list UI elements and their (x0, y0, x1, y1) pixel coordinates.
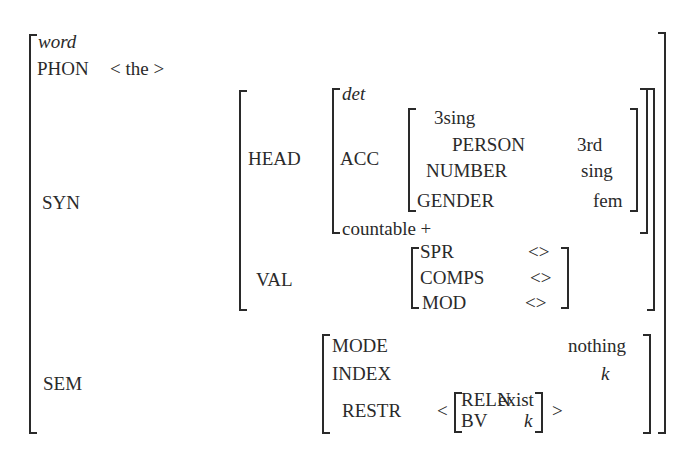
word-type: word (38, 31, 76, 53)
syn-label: SYN (42, 192, 80, 214)
acc-type: 3sing (434, 107, 475, 129)
index-label: INDEX (332, 363, 391, 385)
person-label: PERSON (452, 134, 525, 156)
sem-bracket-left (322, 334, 330, 434)
mod-value: <> (525, 292, 546, 314)
syn-bracket-left (239, 90, 247, 311)
acc-bracket-left (408, 108, 416, 212)
sem-label: SEM (43, 373, 82, 395)
restr-bracket-right (535, 392, 543, 433)
reln-value: exist (498, 389, 534, 411)
spr-label: SPR (420, 241, 454, 263)
head-label: HEAD (248, 148, 301, 170)
restr-open-angle: < (437, 400, 448, 422)
head-bracket-right (640, 88, 648, 234)
gender-value: fem (593, 190, 623, 212)
gender-label: GENDER (417, 190, 494, 212)
index-value: k (601, 363, 609, 385)
acc-bracket-right (630, 108, 638, 212)
outer-bracket-left (29, 34, 37, 434)
countable-feature: countable + (342, 218, 431, 240)
head-bracket-left (332, 88, 340, 234)
phon-label: PHON (37, 58, 89, 80)
val-bracket-right (561, 247, 569, 309)
comps-label: COMPS (420, 267, 484, 289)
restr-label: RESTR (342, 400, 401, 422)
mode-value: nothing (568, 335, 626, 357)
spr-value: <> (528, 241, 549, 263)
val-bracket-left (411, 247, 419, 309)
sem-bracket-right (643, 334, 651, 434)
head-type: det (342, 83, 365, 105)
bv-label: BV (461, 410, 487, 432)
syn-bracket-right (647, 88, 655, 311)
outer-bracket-right (658, 32, 666, 434)
comps-value: <> (530, 267, 551, 289)
acc-label: ACC (340, 148, 379, 170)
person-value: 3rd (577, 134, 602, 156)
val-label: VAL (256, 269, 293, 291)
mode-label: MODE (332, 335, 388, 357)
phon-value: < the > (110, 58, 164, 80)
restr-close-angle: > (552, 400, 563, 422)
number-label: NUMBER (426, 160, 507, 182)
number-value: sing (581, 160, 613, 182)
bv-value: k (524, 410, 532, 432)
mod-label: MOD (422, 292, 466, 314)
